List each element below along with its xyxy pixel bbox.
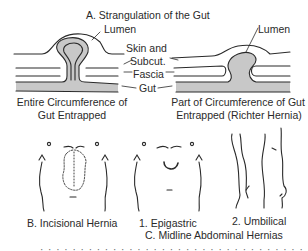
right-caption-line1: Part of Circumference of Gut	[168, 96, 308, 108]
left-caption-line1: Entire Circumference of	[13, 96, 131, 108]
epigastric-hernia-illustration	[134, 142, 202, 211]
incisional-hernia-illustration	[39, 142, 108, 211]
epigastric-label: 1. Epigastric	[139, 217, 197, 229]
umbilical-hernia-illustration	[231, 128, 286, 208]
lumen-label-right: Lumen	[258, 23, 290, 35]
strangulation-right-illustration	[172, 45, 290, 92]
umbilical-label: 2. Umbilical	[232, 215, 286, 227]
panel-b-label: B. Incisional Hernia	[27, 217, 117, 229]
left-caption-line2: Gut Entrapped	[13, 109, 131, 121]
subcut-label: Subcut.	[130, 55, 166, 67]
right-caption-line2: Entrapped (Richter Hernia)	[172, 109, 306, 121]
panel-a-title: A. Strangulation of the Gut	[86, 9, 210, 21]
lumen-label-left: Lumen	[104, 23, 136, 35]
skin-label: Skin and	[126, 42, 167, 54]
gut-label: Gut	[139, 82, 156, 94]
hernia-diagram-artwork	[0, 0, 308, 251]
strangulation-left-illustration	[14, 34, 124, 92]
panel-c-title: C. Midline Abdominal Hernias	[145, 229, 283, 241]
fascia-label: Fascia	[133, 68, 164, 80]
cut-off-text: · · · · · · · · · · · · · · · · · · · · …	[40, 244, 308, 251]
